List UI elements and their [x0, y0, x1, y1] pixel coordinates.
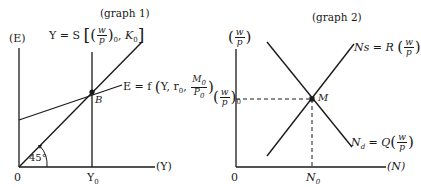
expenditure-arg1-sub: 0 [179, 87, 183, 95]
graph2-x-axis-label: (N) [387, 161, 405, 172]
graph2-y-tick-label: (wp)0 [213, 88, 241, 107]
graph2-x-tick-label: N0 [306, 172, 320, 186]
graph1-axes [19, 48, 155, 167]
x-tick-n-sub: 0 [316, 178, 320, 186]
ns-lhs: Ns = R [354, 41, 394, 54]
supply-frac-den: p [99, 36, 105, 45]
graph1-expenditure-equation: E = f (Y, r0, M0P0) [123, 75, 214, 100]
expenditure-arg1: Y, r [161, 80, 179, 93]
graph1-45-degree-line [19, 42, 142, 167]
graph1-point-b-label: B [95, 95, 102, 105]
supply-sub: 0 [114, 36, 118, 44]
graph1-origin-label: 0 [14, 172, 21, 183]
graph1-point-b [89, 89, 94, 94]
expenditure-frac-num-sub: 0 [201, 79, 205, 87]
graph1-angle-label: 45° [29, 153, 47, 163]
graph2-point-m-label: M [318, 93, 328, 103]
supply-lhs: Y = S [49, 29, 80, 42]
graph1-x-axis-label: (Y) [156, 161, 172, 172]
expenditure-frac-den-sub: 0 [200, 92, 204, 100]
nd-sub: d [361, 143, 365, 151]
graph2-y-axis-label: (wp) [228, 28, 251, 47]
graph2-demand-equation: Nd = Q(wp) [351, 133, 414, 152]
graph1-title: (graph 1) [100, 8, 150, 19]
nd-lhs: N [351, 136, 361, 149]
graph2-point-m [310, 97, 315, 102]
y-axis-frac-den: p [237, 38, 243, 47]
graph1-x-tick-label: Y0 [87, 172, 99, 186]
nd-frac-den: p [399, 143, 405, 152]
graph2-supply-equation: Ns = R (wp) [354, 38, 421, 57]
expenditure-lhs: E = f [123, 80, 151, 93]
x-tick-y-sub: 0 [94, 178, 98, 186]
graph2-demand-line [267, 42, 352, 147]
graph1-supply-equation: Y = S [(wp)0, K0] [49, 26, 144, 45]
graph2-title: (graph 2) [312, 12, 362, 23]
nd-eq: = Q [369, 136, 391, 149]
x-tick-n: N [306, 171, 316, 184]
y-tick-frac-den: p [222, 98, 228, 107]
graph2-origin-label: 0 [231, 172, 238, 183]
graph1-y-axis-label: (E) [9, 33, 26, 44]
y-tick-sub: 0 [236, 98, 240, 106]
ns-frac-den: p [406, 48, 412, 57]
